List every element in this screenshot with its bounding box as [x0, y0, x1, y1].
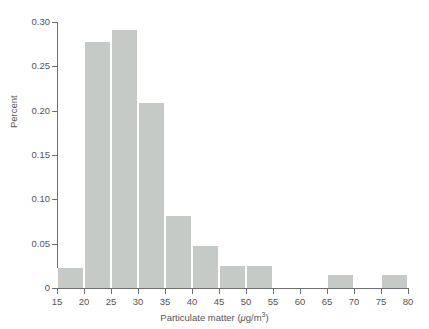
x-axis-tick-label: 15: [42, 296, 72, 307]
x-axis-tick-mark: [192, 289, 193, 294]
x-axis-tick-label: 70: [339, 296, 369, 307]
y-axis-tick-label: 0.15: [0, 150, 50, 160]
histogram-bar: [327, 275, 354, 288]
x-axis-tick-label: 65: [312, 296, 342, 307]
x-axis-tick-mark: [138, 289, 139, 294]
histogram-bar: [57, 268, 84, 288]
x-axis-tick-label: 25: [96, 296, 126, 307]
x-axis-tick-label: 60: [285, 296, 315, 307]
histogram-bar: [84, 42, 111, 288]
x-axis-label-text-before: Particulate matter (: [160, 312, 240, 323]
x-axis-label-text-after: ): [266, 312, 269, 323]
x-axis-tick-label: 20: [69, 296, 99, 307]
y-axis-label: Percent: [8, 95, 19, 128]
x-axis-tick-label: 35: [150, 296, 180, 307]
x-axis-tick-mark: [327, 289, 328, 294]
y-axis-tick-label: 0.30: [0, 17, 50, 27]
histogram-figure: 00.050.100.150.200.250.30 15202530354045…: [0, 0, 429, 329]
histogram-bar: [246, 266, 273, 288]
histogram-bar: [165, 216, 192, 288]
x-axis-tick-mark: [219, 289, 220, 294]
x-axis-tick-label: 75: [366, 296, 396, 307]
histogram-bar: [111, 30, 138, 288]
histogram-bar: [219, 266, 246, 288]
x-axis-tick-label: 80: [393, 296, 423, 307]
x-axis-tick-mark: [111, 289, 112, 294]
x-axis-tick-label: 50: [231, 296, 261, 307]
x-axis-tick-mark: [165, 289, 166, 294]
x-axis-line: [57, 288, 409, 289]
x-axis-tick-mark: [57, 289, 58, 294]
x-axis-tick-mark: [300, 289, 301, 294]
x-axis-tick-mark: [273, 289, 274, 294]
x-axis-tick-mark: [84, 289, 85, 294]
x-axis-tick-label: 30: [123, 296, 153, 307]
histogram-bar: [192, 246, 219, 288]
x-axis-tick-mark: [246, 289, 247, 294]
histogram-bar: [381, 275, 408, 288]
y-axis-tick-label: 0.10: [0, 194, 50, 204]
plot-area: [57, 22, 408, 288]
x-axis-tick-mark: [381, 289, 382, 294]
histogram-bar: [138, 103, 165, 288]
x-axis-tick-mark: [354, 289, 355, 294]
x-axis-tick-label: 45: [204, 296, 234, 307]
x-axis-label-unit: g/m: [246, 312, 262, 323]
x-axis-tick-label: 55: [258, 296, 288, 307]
y-axis-tick-label: 0.05: [0, 239, 50, 249]
y-axis-tick-label: 0.25: [0, 61, 50, 71]
y-axis-tick-label: 0: [0, 283, 50, 293]
x-axis-tick-mark: [408, 289, 409, 294]
x-axis-tick-label: 40: [177, 296, 207, 307]
bar-series: [57, 22, 408, 288]
x-axis-label: Particulate matter (μg/m3): [0, 311, 429, 323]
